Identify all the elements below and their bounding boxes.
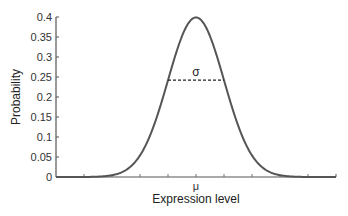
x-axis-title: Expression level: [152, 192, 239, 206]
y-tick-label: 0.35: [31, 31, 52, 43]
y-tick-label: 0.05: [31, 151, 52, 163]
y-tick-label: 0.15: [31, 111, 52, 123]
y-axis-title: Probability: [9, 69, 23, 125]
y-tick-label: 0: [46, 171, 52, 183]
normal-distribution-chart: 00.050.10.150.20.250.30.350.4 μ σ Expres…: [0, 0, 348, 216]
y-tick-label: 0.25: [31, 71, 52, 83]
y-tick-label: 0.4: [37, 11, 52, 23]
sigma-label: σ: [192, 65, 200, 79]
x-tick-label-mu: μ: [193, 180, 199, 192]
y-axis: 00.050.10.150.20.250.30.350.4: [31, 11, 59, 183]
gaussian-curve: [56, 17, 336, 177]
y-tick-label: 0.3: [37, 51, 52, 63]
y-tick-label: 0.1: [37, 131, 52, 143]
y-tick-label: 0.2: [37, 91, 52, 103]
